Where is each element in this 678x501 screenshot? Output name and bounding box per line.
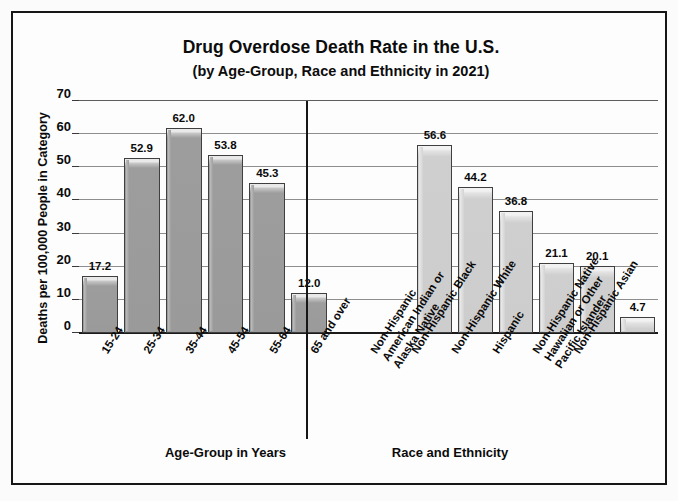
y-tick-mark xyxy=(72,199,79,200)
bar xyxy=(124,158,160,333)
bar-value-label: 36.8 xyxy=(505,195,527,207)
panel-age-group: 17.252.962.053.845.312.0 xyxy=(79,101,372,333)
bar-value-label: 62.0 xyxy=(172,112,194,124)
bar-value-label: 44.2 xyxy=(464,171,486,183)
panel-divider xyxy=(306,101,308,439)
bar-slot: 17.2 xyxy=(82,101,118,333)
bar-value-label: 56.6 xyxy=(424,129,446,141)
y-tick-mark xyxy=(72,266,79,267)
bar-value-label: 21.1 xyxy=(545,247,567,259)
bar-slot: 12.0 xyxy=(291,101,327,333)
chart-frame: Drug Overdose Death Rate in the U.S. (by… xyxy=(11,11,667,485)
bar xyxy=(82,276,118,333)
title-block: Drug Overdose Death Rate in the U.S. (by… xyxy=(13,37,669,81)
bar-value-label: 17.2 xyxy=(89,260,111,272)
bar-slot: 36.8 xyxy=(499,101,534,333)
y-tick-label: 10 xyxy=(57,284,71,299)
chart-title: Drug Overdose Death Rate in the U.S. xyxy=(13,37,669,59)
y-tick-mark xyxy=(72,166,79,167)
bar-slot: 53.8 xyxy=(208,101,244,333)
y-tick-label: 40 xyxy=(57,185,71,200)
bar-slot: 52.9 xyxy=(124,101,160,333)
y-tick-mark xyxy=(72,299,79,300)
y-tick-label: 20 xyxy=(57,251,71,266)
x-axis-title-race-ethnicity: Race and Ethnicity xyxy=(308,445,592,460)
bar-slot: 62.0 xyxy=(166,101,202,333)
bar-value-label: 12.0 xyxy=(298,277,320,289)
chart-subtitle: (by Age-Group, Race and Ethnicity in 202… xyxy=(13,62,669,81)
bar-value-label: 53.8 xyxy=(214,139,236,151)
y-tick-label: 70 xyxy=(57,86,71,101)
y-tick-mark xyxy=(72,332,79,333)
y-tick-label: 60 xyxy=(57,119,71,134)
chart-image: Drug Overdose Death Rate in the U.S. (by… xyxy=(0,0,678,501)
y-tick-mark xyxy=(72,100,79,101)
bar-slot: 45.3 xyxy=(249,101,285,333)
y-axis-title: Deaths per 100,000 People in Category xyxy=(36,103,50,353)
bar-value-label: 4.7 xyxy=(630,301,646,313)
bar xyxy=(208,155,244,333)
y-tick-label: 0 xyxy=(64,318,71,333)
y-tick-mark xyxy=(72,233,79,234)
bar xyxy=(249,183,285,333)
y-tick-mark xyxy=(72,133,79,134)
bar xyxy=(620,317,655,333)
bar-value-label: 52.9 xyxy=(131,142,153,154)
y-tick-label: 30 xyxy=(57,218,71,233)
bar-value-label: 45.3 xyxy=(256,167,278,179)
bar-slot: 4.7 xyxy=(620,101,655,333)
bar xyxy=(166,128,202,333)
y-tick-label: 50 xyxy=(57,152,71,167)
